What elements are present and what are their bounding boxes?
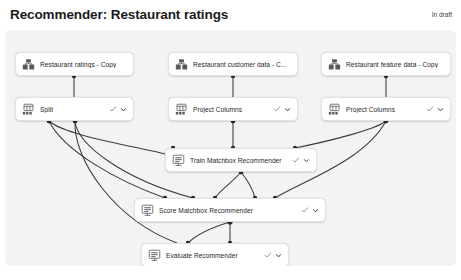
node-label: Split (40, 106, 53, 113)
model-icon (148, 249, 161, 262)
node-label: Score Matchbox Recommender (159, 207, 253, 214)
chevron-down-icon[interactable] (312, 207, 319, 214)
check-icon[interactable] (273, 105, 281, 113)
edge-project2-to-train (295, 121, 386, 148)
model-icon (141, 204, 154, 217)
edge-split-to-train (49, 121, 173, 156)
module-icon (22, 103, 35, 116)
node-split[interactable]: Split (15, 97, 134, 121)
edge-split-to-score (49, 121, 165, 198)
node-actions[interactable] (296, 206, 319, 214)
node-restaurant-ratings-copy[interactable]: Restaurant ratings - Copy (15, 52, 134, 76)
node-train-matchbox-recommender[interactable]: Train Matchbox Recommender (165, 148, 317, 172)
module-icon (328, 103, 341, 116)
node-label: Project Columns (193, 106, 242, 113)
chevron-down-icon[interactable] (120, 106, 127, 113)
module-icon (175, 103, 188, 116)
page-header: Recommender: Restaurant ratings In draft (0, 0, 461, 30)
node-label: Restaurant feature data - Copy (346, 61, 438, 68)
node-project-columns-2[interactable]: Project Columns (321, 97, 451, 121)
edge-train-to-score-a (215, 172, 241, 198)
node-label: Restaurant customer data - C... (193, 61, 287, 68)
node-score-matchbox-recommender[interactable]: Score Matchbox Recommender (134, 198, 326, 222)
node-actions[interactable] (421, 105, 444, 113)
check-icon[interactable] (426, 105, 434, 113)
chevron-down-icon[interactable] (275, 252, 282, 259)
node-restaurant-customer-data[interactable]: Restaurant customer data - C... (168, 52, 298, 76)
node-label: Evaluate Recommender (166, 252, 238, 259)
check-icon[interactable] (292, 156, 300, 164)
node-restaurant-feature-data-copy[interactable]: Restaurant feature data - Copy (321, 52, 451, 76)
chevron-down-icon[interactable] (437, 106, 444, 113)
pipeline-canvas[interactable]: Restaurant ratings - Copy Restaurant cus… (5, 30, 456, 266)
dataset-icon (22, 58, 35, 71)
node-label: Restaurant ratings - Copy (40, 61, 116, 68)
model-icon (172, 154, 185, 167)
page-title: Recommender: Restaurant ratings (10, 7, 228, 22)
node-actions[interactable] (104, 105, 127, 113)
chevron-down-icon[interactable] (303, 157, 310, 164)
node-actions[interactable] (259, 251, 282, 259)
check-icon[interactable] (264, 251, 272, 259)
dataset-icon (328, 58, 341, 71)
chevron-down-icon[interactable] (284, 106, 291, 113)
check-icon[interactable] (109, 105, 117, 113)
node-actions[interactable] (287, 156, 310, 164)
node-label: Project Columns (346, 106, 395, 113)
node-project-columns-1[interactable]: Project Columns (168, 97, 298, 121)
edge-train-to-score-b (241, 172, 255, 198)
check-icon[interactable] (301, 206, 309, 214)
node-label: Train Matchbox Recommender (190, 157, 282, 164)
dataset-icon (175, 58, 188, 71)
node-evaluate-recommender[interactable]: Evaluate Recommender (141, 243, 289, 266)
node-actions[interactable] (268, 105, 291, 113)
edge-score-to-evaluate-b (188, 222, 230, 243)
status-badge: In draft (432, 11, 452, 18)
